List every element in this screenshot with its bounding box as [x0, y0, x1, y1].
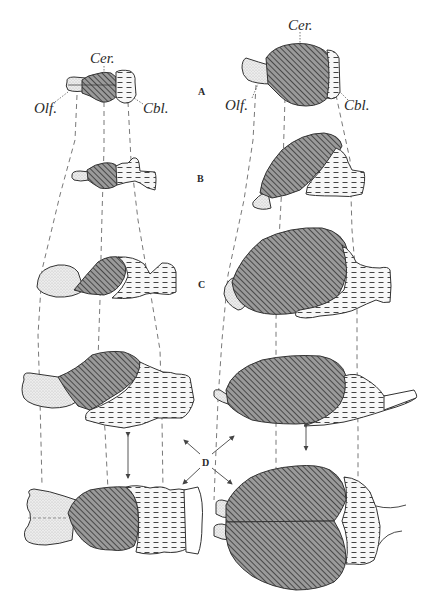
brain-d-side-small	[22, 351, 194, 428]
label-olf-right: Olf.	[225, 97, 248, 113]
brain-d-dorsal-small	[24, 486, 202, 554]
cerebellum	[342, 477, 380, 565]
label-olf-left: Olf.	[34, 100, 57, 116]
cerebellum	[327, 50, 340, 99]
brain-a-large	[242, 44, 340, 107]
row-label-b: B	[197, 173, 204, 184]
medulla-outline	[376, 505, 406, 546]
cerebellum	[116, 158, 156, 190]
brain-d-side-large	[214, 356, 417, 427]
brain-comparison-figure: Cer. Olf. Cbl. Cer. Olf. Cbl. A B C D	[0, 0, 440, 608]
cerebrum	[68, 487, 139, 551]
brain-d-dorsal-large	[214, 466, 406, 591]
cerebrum	[74, 257, 126, 295]
row-label-c: C	[198, 279, 205, 290]
cerebrum-upper-hemisphere	[226, 466, 346, 523]
row-label-a: A	[198, 86, 206, 97]
olfactory-bulb	[24, 489, 76, 545]
brain-b-small	[72, 158, 156, 190]
olfactory-bulb	[37, 265, 84, 297]
cerebrum	[266, 44, 331, 107]
label-cbl-left: Cbl.	[143, 100, 168, 116]
row-label-d: D	[202, 457, 209, 468]
spinal-cord	[384, 390, 417, 410]
label-cer-left: Cer.	[90, 50, 115, 66]
cerebellum	[116, 70, 136, 103]
label-cbl-right: Cbl.	[344, 97, 369, 113]
brain-c-small	[37, 257, 176, 299]
brain-c-large	[224, 228, 391, 318]
cerebrum-lower-hemisphere	[225, 521, 346, 590]
cerebrum	[226, 356, 346, 425]
label-cer-right: Cer.	[288, 17, 313, 33]
brain-b-large	[253, 133, 365, 209]
cerebrum	[82, 72, 117, 102]
cerebrum	[87, 163, 117, 189]
medulla	[184, 487, 203, 554]
